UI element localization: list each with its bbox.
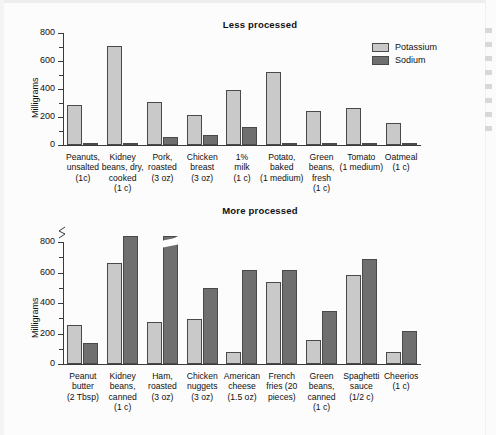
y-tick-major xyxy=(58,145,63,146)
bar-group xyxy=(143,33,183,145)
x-label-line: (1 c) xyxy=(313,402,330,412)
bar-potassium xyxy=(187,115,202,145)
bar-sodium xyxy=(203,288,218,364)
plot-area-less-processed: 0200400600800 xyxy=(63,33,421,145)
x-label-line: milk xyxy=(234,162,249,172)
bar-potassium xyxy=(386,123,401,145)
bar-group xyxy=(182,33,222,145)
x-axis-category-label: Oatmeal(1 c) xyxy=(369,152,433,173)
x-label-line: (1 c) xyxy=(313,183,330,193)
bar-sodium xyxy=(163,236,178,364)
legend-swatch-sodium xyxy=(372,56,389,65)
figure-page: Less processed Milligrams 0200400600800 … xyxy=(0,0,496,435)
bar-sodium xyxy=(402,331,417,364)
x-axis-line-top xyxy=(63,145,421,146)
bar-sodium xyxy=(83,143,98,145)
page-edge-top xyxy=(0,0,496,3)
bar-group xyxy=(63,33,103,145)
bar-potassium xyxy=(346,275,361,364)
legend-item-potassium: Potassium xyxy=(372,42,437,52)
x-label-line: (1 c) xyxy=(233,173,250,183)
bar-sodium xyxy=(242,270,257,364)
x-axis-line-bottom xyxy=(63,364,421,365)
y-tick-label: 800 xyxy=(15,27,55,37)
x-axis-category-label: Cheerios(1 c) xyxy=(369,371,433,392)
bar-potassium xyxy=(107,46,122,145)
bar-potassium xyxy=(226,90,241,145)
bar-potassium xyxy=(67,325,82,364)
bar-group xyxy=(143,242,183,364)
bar-sodium xyxy=(83,343,98,364)
x-label-line: Cheerios xyxy=(384,371,418,381)
x-label-line: (1c) xyxy=(75,173,90,183)
bar-sodium xyxy=(163,137,178,145)
y-tick-label: 200 xyxy=(15,111,55,121)
bar-sodium xyxy=(362,143,377,145)
y-tick-label: 200 xyxy=(15,328,55,338)
bar-potassium xyxy=(306,340,321,364)
bar-group xyxy=(63,242,103,364)
y-tick-label: 400 xyxy=(15,83,55,93)
bar-sodium xyxy=(123,143,138,145)
chart-title-more-processed: More processed xyxy=(140,205,380,216)
bar-potassium xyxy=(306,111,321,145)
bar-sodium xyxy=(362,259,377,364)
x-label-line: Oatmeal xyxy=(385,152,417,162)
plot-area-more-processed: 0200400600800 xyxy=(63,242,421,364)
bar-series-bottom xyxy=(63,242,421,364)
bar-potassium xyxy=(386,352,401,364)
bar-sodium xyxy=(402,143,417,145)
bar-group xyxy=(262,242,302,364)
bar-group xyxy=(103,33,143,145)
x-label-line: (1 c) xyxy=(393,162,410,172)
x-label-line: (1 c) xyxy=(393,381,410,391)
chart-title-less-processed: Less processed xyxy=(140,19,380,30)
page-edge-left xyxy=(0,0,4,435)
y-tick-major xyxy=(58,364,63,365)
y-tick-label: 0 xyxy=(15,358,55,368)
bar-potassium xyxy=(266,282,281,364)
bar-group xyxy=(222,33,262,145)
bar-potassium xyxy=(107,263,122,364)
bar-sodium xyxy=(242,127,257,145)
adjacent-column-text-sliver xyxy=(485,28,494,178)
y-axis-break-icon xyxy=(57,226,69,240)
x-label-line: (1 c) xyxy=(114,183,131,193)
x-label-line: 1% xyxy=(236,152,248,162)
x-label-line: fresh xyxy=(312,173,331,183)
bar-group xyxy=(182,242,222,364)
bar-sodium xyxy=(282,143,297,145)
x-axis-labels-bottom: Peanutbutter(2 Tbsp)Kidneybeans,canned(1… xyxy=(63,371,421,431)
bar-sodium xyxy=(203,135,218,145)
bar-potassium xyxy=(346,108,361,145)
bar-group xyxy=(262,33,302,145)
y-tick-label: 0 xyxy=(15,139,55,149)
bar-series-top xyxy=(63,33,421,145)
bar-potassium xyxy=(147,102,162,145)
bar-group xyxy=(103,242,143,364)
bar-potassium xyxy=(187,319,202,364)
y-tick-label: 600 xyxy=(15,267,55,277)
bar-potassium xyxy=(147,322,162,364)
bar-sodium xyxy=(322,311,337,364)
y-tick-label: 400 xyxy=(15,297,55,307)
bar-group xyxy=(302,33,342,145)
legend-label-sodium: Sodium xyxy=(395,55,426,65)
bar-sodium xyxy=(282,270,297,364)
bar-sodium xyxy=(322,143,337,145)
y-tick-label: 600 xyxy=(15,55,55,65)
bar-group xyxy=(381,242,421,364)
bar-potassium xyxy=(266,72,281,145)
y-tick-label: 800 xyxy=(15,236,55,246)
chart-legend: Potassium Sodium xyxy=(372,42,437,65)
bar-group xyxy=(222,242,262,364)
bar-group xyxy=(341,242,381,364)
bar-group xyxy=(302,242,342,364)
x-label-line: (1/2 c) xyxy=(349,392,373,402)
bar-potassium xyxy=(226,352,241,364)
bar-potassium xyxy=(67,105,82,145)
x-axis-labels-top: Peanuts,unsalted(1c)Kidneybeans, dry,coo… xyxy=(63,152,421,212)
legend-label-potassium: Potassium xyxy=(395,42,437,52)
legend-swatch-potassium xyxy=(372,43,389,52)
bar-sodium xyxy=(123,236,138,364)
